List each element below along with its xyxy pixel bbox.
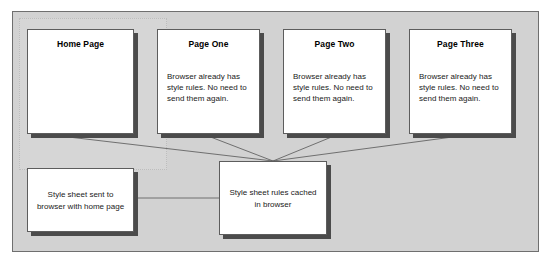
node-style-sheet-cached[interactable]: Style sheet rules cached in browser <box>219 161 327 235</box>
node-page-two[interactable]: Page Two Browser already has style rules… <box>283 29 386 134</box>
node-page-two-title: Page Two <box>284 39 385 49</box>
node-page-three[interactable]: Page Three Browser already has style rul… <box>409 29 512 134</box>
node-page-three-body: Browser already has style rules. No need… <box>410 71 511 104</box>
node-page-one-body: Browser already has style rules. No need… <box>158 71 259 104</box>
node-style-sheet-sent[interactable]: Style sheet sent to browser with home pa… <box>27 168 134 232</box>
diagram-canvas: Home Page Page One Browser already has s… <box>0 0 552 264</box>
node-page-two-body: Browser already has style rules. No need… <box>284 71 385 104</box>
node-page-one[interactable]: Page One Browser already has style rules… <box>157 29 260 134</box>
node-page-three-title: Page Three <box>410 39 511 49</box>
node-page-one-title: Page One <box>158 39 259 49</box>
node-home-page[interactable]: Home Page <box>27 29 134 134</box>
node-style-sheet-sent-text: Style sheet sent to browser with home pa… <box>28 189 133 212</box>
node-style-sheet-cached-text: Style sheet rules cached in browser <box>220 187 326 210</box>
node-home-page-title: Home Page <box>28 39 133 49</box>
